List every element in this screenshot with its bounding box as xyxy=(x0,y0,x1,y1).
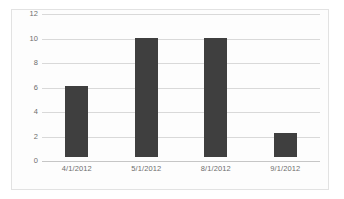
bar[interactable] xyxy=(204,38,227,157)
y-axis-tick-label: 12 xyxy=(16,10,38,18)
y-axis-tick-label: 10 xyxy=(16,35,38,43)
bar-slot xyxy=(251,14,321,157)
y-axis-tick-label: 8 xyxy=(16,59,38,67)
y-axis-tick-label: 2 xyxy=(16,133,38,141)
bar[interactable] xyxy=(135,38,158,157)
x-axis-tick-label: 5/1/2012 xyxy=(112,163,182,175)
chart-container: 12 10 8 6 4 2 0 xyxy=(11,9,329,190)
y-axis: 12 10 8 6 4 2 0 xyxy=(16,10,38,189)
x-axis-tick-label: 4/1/2012 xyxy=(42,163,112,175)
bar[interactable] xyxy=(65,86,88,158)
bar-slot xyxy=(42,14,112,157)
plot-area xyxy=(42,14,320,157)
x-axis-tick-label: 8/1/2012 xyxy=(181,163,251,175)
bar-slot xyxy=(112,14,182,157)
y-axis-tick-label: 6 xyxy=(16,84,38,92)
bar-slot xyxy=(181,14,251,157)
x-axis: 4/1/2012 5/1/2012 8/1/2012 9/1/2012 xyxy=(42,163,320,175)
y-axis-tick-label: 4 xyxy=(16,108,38,116)
bar[interactable] xyxy=(274,133,297,157)
bar-series xyxy=(42,14,320,157)
chart-plot-wrapper: 12 10 8 6 4 2 0 xyxy=(12,10,328,189)
y-axis-tick-label: 0 xyxy=(16,157,38,165)
axis-baseline xyxy=(42,161,320,162)
x-axis-tick-label: 9/1/2012 xyxy=(251,163,321,175)
